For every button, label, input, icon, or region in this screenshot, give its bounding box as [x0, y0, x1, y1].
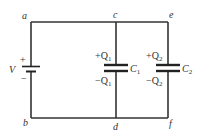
- battery-plus-sign: +: [20, 54, 26, 65]
- capacitor-c1: +Q1 −Q1 C1: [95, 50, 141, 88]
- capacitor-c1-label: C1: [130, 63, 141, 76]
- capacitor-c2-negative-charge: −Q2: [146, 75, 163, 88]
- node-label-a: a: [22, 10, 27, 21]
- node-label-f: f: [169, 118, 173, 129]
- capacitor-c2-label: C2: [182, 63, 193, 76]
- battery-minus-sign: −: [21, 73, 27, 84]
- node-labels: a c e b d f: [22, 9, 174, 132]
- capacitor-c2-positive-charge: +Q2: [146, 50, 163, 63]
- battery: + V −: [9, 54, 40, 84]
- node-label-d: d: [113, 121, 119, 132]
- circuit-diagram: + V − +Q1 −Q1 C1 +Q2 −Q2 C2 a c e b d f: [0, 0, 202, 140]
- node-label-c: c: [113, 9, 118, 20]
- capacitor-c1-negative-charge: −Q1: [95, 75, 112, 88]
- node-label-e: e: [169, 9, 174, 20]
- battery-voltage-label: V: [9, 64, 17, 75]
- capacitor-c1-positive-charge: +Q1: [95, 50, 112, 63]
- wires: [31, 22, 168, 118]
- capacitor-c2: +Q2 −Q2 C2: [146, 50, 193, 88]
- node-label-b: b: [23, 117, 28, 128]
